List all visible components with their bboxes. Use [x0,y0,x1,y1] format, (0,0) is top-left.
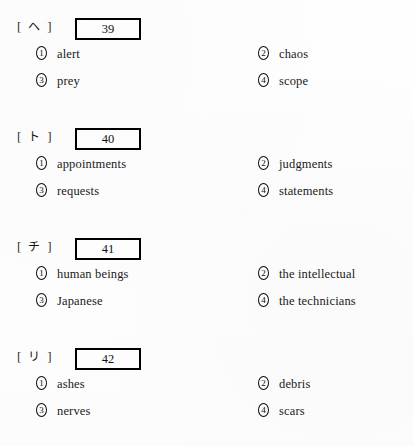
option-choice[interactable]: 3Japanese [36,289,103,311]
question-header: [ヘ] 39 [0,14,413,42]
option-choice[interactable]: 2chaos [258,42,308,64]
option-label: scars [279,400,305,422]
option-choice[interactable]: 1alert [36,42,80,64]
question-block: [リ] 42 1ashes 2debris 3nerves 4scars [0,344,413,434]
question-number-box: 39 [75,18,141,40]
option-label: judgments [279,153,332,175]
option-choice[interactable]: 4the technicians [258,289,356,311]
kana-label: ヘ [21,17,47,37]
option-label: nerves [57,400,91,422]
bracket-close: ] [47,347,51,367]
option-choice[interactable]: 1appointments [36,152,126,174]
question-number-box: 41 [75,238,141,260]
question-kana-bracket: [チ] [17,237,75,257]
circled-two-icon: 2 [258,46,271,61]
option-choice[interactable]: 1ashes [36,372,85,394]
circled-one-icon: 1 [36,266,49,281]
question-number: 40 [77,130,139,148]
circled-two-icon: 2 [258,376,271,391]
option-choice[interactable]: 1human beings [36,262,129,284]
option-choice[interactable]: 3prey [36,69,80,91]
option-list: 1human beings 2the intellectual 3Japanes… [0,262,413,324]
question-kana-bracket: [リ] [17,347,75,367]
circled-one-icon: 1 [36,46,49,61]
kana-label: ト [21,127,47,147]
option-choice[interactable]: 4scars [258,399,305,421]
option-label: Japanese [57,290,103,312]
question-number: 42 [77,350,139,368]
option-list: 1alert 2chaos 3prey 4scope [0,42,413,104]
question-header: [ト] 40 [0,124,413,152]
option-label: the intellectual [279,263,355,285]
option-label: alert [57,43,80,65]
question-kana-bracket: [ト] [17,127,75,147]
option-label: statements [279,180,333,202]
question-number-box: 42 [75,348,141,370]
circled-three-icon: 3 [36,403,49,418]
option-label: human beings [57,263,129,285]
option-list: 1ashes 2debris 3nerves 4scars [0,372,413,434]
option-label: chaos [279,43,308,65]
kana-label: リ [21,347,47,367]
question-block: [ヘ] 39 1alert 2chaos 3prey 4scope [0,14,413,104]
question-kana-bracket: [ヘ] [17,17,75,37]
option-label: ashes [57,373,85,395]
option-label: debris [279,373,310,395]
circled-one-icon: 1 [36,156,49,171]
option-list: 1appointments 2judgments 3requests 4stat… [0,152,413,214]
circled-three-icon: 3 [36,183,49,198]
circled-four-icon: 4 [258,183,271,198]
bracket-close: ] [47,17,51,37]
option-choice[interactable]: 2debris [258,372,310,394]
question-block: [ト] 40 1appointments 2judgments 3request… [0,124,413,214]
circled-three-icon: 3 [36,73,49,88]
option-choice[interactable]: 4statements [258,179,333,201]
question-number: 39 [77,20,139,38]
question-number: 41 [77,240,139,258]
bracket-close: ] [47,127,51,147]
question-number-box: 40 [75,128,141,150]
circled-four-icon: 4 [258,293,271,308]
option-label: scope [279,70,308,92]
circled-two-icon: 2 [258,156,271,171]
question-header: [リ] 42 [0,344,413,372]
option-label: prey [57,70,80,92]
option-label: the technicians [279,290,356,312]
circled-three-icon: 3 [36,293,49,308]
option-choice[interactable]: 4scope [258,69,308,91]
circled-one-icon: 1 [36,376,49,391]
option-label: requests [57,180,99,202]
option-choice[interactable]: 2the intellectual [258,262,355,284]
circled-two-icon: 2 [258,266,271,281]
circled-four-icon: 4 [258,403,271,418]
option-choice[interactable]: 3requests [36,179,99,201]
circled-four-icon: 4 [258,73,271,88]
option-choice[interactable]: 3nerves [36,399,91,421]
worksheet-page: [ヘ] 39 1alert 2chaos 3prey 4scope [ト] [0,0,413,446]
option-label: appointments [57,153,126,175]
question-header: [チ] 41 [0,234,413,262]
kana-label: チ [21,237,47,257]
question-block: [チ] 41 1human beings 2the intellectual 3… [0,234,413,324]
option-choice[interactable]: 2judgments [258,152,332,174]
bracket-close: ] [47,237,51,257]
